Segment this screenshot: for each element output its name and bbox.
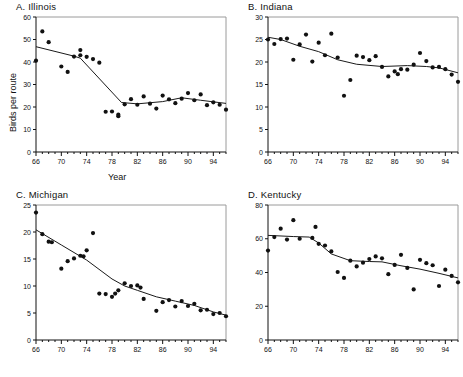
svg-text:90: 90: [416, 346, 424, 353]
svg-text:60: 60: [255, 235, 263, 242]
svg-text:94: 94: [441, 158, 449, 165]
svg-text:94: 94: [441, 346, 449, 353]
svg-text:70: 70: [57, 346, 65, 353]
svg-text:82: 82: [133, 346, 141, 353]
svg-text:90: 90: [184, 346, 192, 353]
svg-text:82: 82: [365, 158, 373, 165]
svg-text:5: 5: [259, 126, 263, 133]
svg-text:70: 70: [289, 158, 297, 165]
svg-text:25: 25: [23, 202, 31, 209]
svg-text:25: 25: [255, 36, 263, 43]
panel-b-plot: 0510152025306670747882869094: [232, 0, 463, 188]
bbs-trend-figure: A. Illinois 0102030405060667074788286909…: [0, 0, 463, 377]
svg-text:86: 86: [159, 346, 167, 353]
panel-d-plot: 0204060806670747882869094: [232, 188, 463, 376]
svg-text:86: 86: [391, 346, 399, 353]
svg-text:78: 78: [340, 158, 348, 165]
svg-text:78: 78: [108, 158, 116, 165]
svg-text:90: 90: [184, 158, 192, 165]
svg-text:82: 82: [133, 158, 141, 165]
svg-text:74: 74: [315, 158, 323, 165]
svg-text:74: 74: [83, 158, 91, 165]
svg-text:78: 78: [340, 346, 348, 353]
svg-text:40: 40: [255, 269, 263, 276]
panel-a-xlabel: Year: [108, 172, 126, 182]
svg-text:0: 0: [259, 149, 263, 156]
svg-text:82: 82: [365, 346, 373, 353]
svg-text:74: 74: [315, 346, 323, 353]
svg-text:80: 80: [255, 202, 263, 209]
svg-text:78: 78: [108, 346, 116, 353]
panel-kentucky: D. Kentucky 0204060806670747882869094 Bi…: [232, 188, 463, 376]
panel-a-ylabel: Birds per route: [8, 73, 18, 132]
svg-text:70: 70: [57, 158, 65, 165]
svg-text:66: 66: [264, 346, 272, 353]
svg-text:90: 90: [416, 158, 424, 165]
svg-text:70: 70: [289, 346, 297, 353]
svg-text:94: 94: [209, 346, 217, 353]
panel-c-plot: 05101520256670747882869094: [0, 188, 231, 376]
svg-text:10: 10: [255, 104, 263, 111]
svg-text:15: 15: [23, 256, 31, 263]
svg-text:30: 30: [255, 14, 263, 21]
svg-text:66: 66: [264, 158, 272, 165]
svg-text:20: 20: [255, 59, 263, 66]
svg-text:30: 30: [23, 81, 31, 88]
svg-text:74: 74: [83, 346, 91, 353]
panel-indiana: B. Indiana 0510152025306670747882869094 …: [232, 0, 463, 188]
svg-text:0: 0: [27, 149, 31, 156]
svg-text:0: 0: [259, 337, 263, 344]
svg-text:40: 40: [23, 59, 31, 66]
svg-text:15: 15: [255, 81, 263, 88]
svg-text:5: 5: [27, 310, 31, 317]
svg-text:86: 86: [159, 158, 167, 165]
svg-text:66: 66: [32, 158, 40, 165]
panel-a-plot: 01020304050606670747882869094: [0, 0, 231, 188]
svg-text:86: 86: [391, 158, 399, 165]
svg-text:10: 10: [23, 283, 31, 290]
panel-illinois: A. Illinois 0102030405060667074788286909…: [0, 0, 231, 188]
svg-text:50: 50: [23, 36, 31, 43]
svg-text:20: 20: [23, 104, 31, 111]
svg-text:66: 66: [32, 346, 40, 353]
svg-text:20: 20: [23, 229, 31, 236]
svg-text:20: 20: [255, 303, 263, 310]
svg-text:60: 60: [23, 14, 31, 21]
svg-text:94: 94: [209, 158, 217, 165]
svg-text:0: 0: [27, 337, 31, 344]
svg-text:10: 10: [23, 126, 31, 133]
panel-michigan: C. Michigan 05101520256670747882869094 B…: [0, 188, 231, 376]
